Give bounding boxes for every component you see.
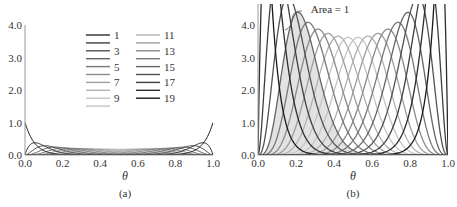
panel-a-chart: 0.01.02.03.04.00.00.20.40.60.81.0 135791… — [8, 19, 220, 200]
legend: 135791113151719 — [86, 29, 176, 106]
x-tick-label: 0.2 — [289, 157, 303, 169]
legend-label: 7 — [114, 76, 120, 88]
legend-label: 13 — [164, 45, 176, 57]
x-tick-label: 1.0 — [206, 157, 220, 169]
area-annotation: Area = 1 — [311, 3, 350, 15]
x-tick-label: 1.0 — [441, 157, 455, 169]
legend-label: 3 — [114, 45, 120, 57]
figure: 0.01.02.03.04.00.00.20.40.60.81.0 135791… — [0, 0, 457, 207]
y-tick-label: 3.0 — [241, 52, 255, 64]
x-tick-label: 0.6 — [131, 157, 145, 169]
x-tick-label: 0.2 — [56, 157, 70, 169]
panel-a-caption: (a) — [119, 187, 132, 200]
legend-label: 17 — [164, 76, 176, 88]
y-tick-label: 4.0 — [8, 19, 22, 31]
legend-label: 1 — [114, 29, 120, 41]
panel-a-xlabel: θ — [122, 169, 128, 183]
x-tick-label: 0.6 — [365, 157, 379, 169]
x-tick-label: 0.8 — [403, 157, 417, 169]
panel-b-caption: (b) — [347, 187, 360, 200]
panel-b-xlabel: θ — [350, 169, 356, 183]
y-tick-label: 1.0 — [8, 117, 22, 129]
x-tick-label: 0.0 — [251, 157, 265, 169]
legend-label: 11 — [164, 29, 175, 41]
legend-label: 9 — [114, 92, 120, 104]
legend-label: 19 — [164, 92, 176, 104]
y-tick-label: 2.0 — [241, 84, 255, 96]
x-tick-label: 0.8 — [169, 157, 183, 169]
x-tick-label: 0.4 — [327, 157, 341, 169]
y-tick-label: 3.0 — [8, 52, 22, 64]
panel-b-curves — [258, 0, 448, 155]
x-tick-label: 0.0 — [18, 157, 32, 169]
panel-a-curves — [25, 123, 213, 156]
x-tick-label: 0.4 — [93, 157, 107, 169]
y-tick-label: 1.0 — [241, 117, 255, 129]
legend-label: 15 — [164, 61, 176, 73]
y-tick-label: 2.0 — [8, 84, 22, 96]
panel-b-chart: 0.01.02.03.04.00.00.20.40.60.81.0 Area =… — [241, 0, 455, 200]
y-tick-label: 4.0 — [241, 19, 255, 31]
legend-label: 5 — [114, 61, 120, 73]
